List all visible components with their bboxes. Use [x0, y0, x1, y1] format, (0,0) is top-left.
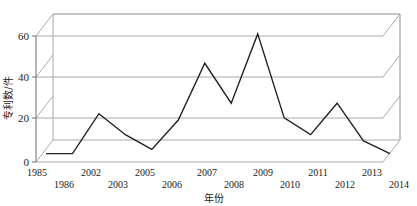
gridline-40-depth — [383, 55, 400, 77]
x-axis-title: 年份 — [204, 192, 224, 204]
x-tick-label-2010: 2010 — [280, 179, 300, 190]
x-tick-label-2007: 2007 — [197, 167, 217, 178]
gridline-20-depth — [383, 96, 400, 118]
x-tick-label-2014: 2014 — [389, 179, 409, 190]
gridline-20-left-diagonal — [36, 96, 53, 118]
x-tick-label-2009: 2009 — [253, 167, 273, 178]
gridline-60-depth — [383, 14, 400, 36]
chart-3d-walls — [36, 14, 400, 162]
x-tick-label-2005: 2005 — [135, 167, 155, 178]
x-tick-label-2011: 2011 — [308, 167, 328, 178]
y-tick-label-60: 60 — [18, 30, 30, 42]
x-axis: 1985 1986 2002 2003 2005 2006 2007 2008 … — [27, 167, 409, 204]
x-tick-label-2002: 2002 — [81, 167, 101, 178]
wall-left-diagonal-top — [36, 14, 53, 36]
floor-left-diagonal — [36, 140, 53, 162]
gridline-40-left-diagonal — [36, 55, 53, 77]
chart-canvas: 60 40 20 0 专利数/件 1985 1986 2002 2003 200… — [0, 0, 417, 206]
x-tick-label-1986: 1986 — [54, 179, 74, 190]
y-tick-label-40: 40 — [18, 71, 30, 83]
x-tick-label-2013: 2013 — [362, 167, 382, 178]
y-axis: 60 40 20 0 专利数/件 — [2, 30, 36, 168]
x-tick-label-2012: 2012 — [335, 179, 355, 190]
patent-count-line-chart: 60 40 20 0 专利数/件 1985 1986 2002 2003 200… — [0, 0, 417, 206]
y-tick-label-20: 20 — [18, 112, 30, 124]
x-tick-label-2006: 2006 — [162, 179, 182, 190]
x-tick-label-1985: 1985 — [27, 167, 47, 178]
patent-count-series-line — [46, 34, 390, 154]
y-axis-title: 专利数/件 — [2, 76, 14, 119]
x-tick-label-2008: 2008 — [224, 179, 244, 190]
x-tick-label-2003: 2003 — [108, 179, 128, 190]
